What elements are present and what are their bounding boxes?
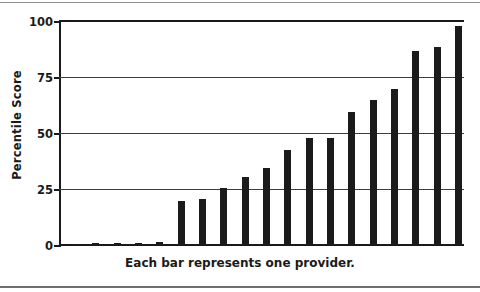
bar (370, 100, 377, 246)
y-tick-mark-100 (54, 21, 59, 23)
gridline-25 (59, 189, 464, 190)
figure-top-rule (0, 2, 480, 3)
gridline-50 (59, 133, 464, 134)
y-tick-label-0: 0 (7, 239, 53, 253)
y-tick-label-100: 100 (7, 15, 53, 29)
y-tick-mark-0 (54, 245, 59, 247)
bar (284, 150, 291, 246)
bar (455, 26, 462, 246)
bar (263, 168, 270, 246)
y-tick-label-75: 75 (7, 71, 53, 85)
bar (306, 138, 313, 246)
figure-container: Percentile Score 0255075100 Each bar rep… (0, 0, 480, 292)
plot-area (59, 22, 464, 246)
y-tick-label-50: 50 (7, 127, 53, 141)
bar (348, 112, 355, 246)
bar (220, 188, 227, 246)
y-axis-tick-labels: 0255075100 (0, 0, 53, 292)
y-tick-mark-75 (54, 77, 59, 79)
y-tick-mark-50 (54, 133, 59, 135)
chart-caption: Each bar represents one provider. (0, 256, 480, 270)
figure-bottom-rule (0, 286, 480, 288)
y-tick-label-25: 25 (7, 183, 53, 197)
bar (135, 243, 142, 246)
gridline-75 (59, 77, 464, 78)
bar (156, 242, 163, 246)
y-tick-mark-25 (54, 189, 59, 191)
bar (412, 51, 419, 246)
bar (178, 201, 185, 246)
bar (114, 243, 121, 246)
bar (391, 89, 398, 246)
bar (327, 138, 334, 246)
bar (434, 47, 441, 246)
bar (199, 199, 206, 246)
bar (92, 243, 99, 246)
gridline-100 (59, 20, 464, 22)
bar (71, 244, 78, 247)
bar (242, 177, 249, 246)
